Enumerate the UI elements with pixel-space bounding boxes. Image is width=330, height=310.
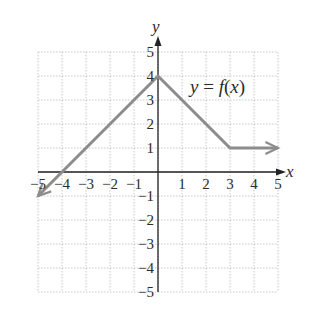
- x-tick-label: −5: [30, 176, 46, 192]
- y-axis-arrow-icon: [155, 36, 162, 46]
- x-tick-label: −4: [54, 176, 70, 192]
- y-tick-label: 1: [147, 140, 155, 156]
- x-tick-label: −2: [102, 176, 118, 192]
- y-tick-label: −2: [138, 212, 154, 228]
- y-tick-label: −5: [138, 284, 154, 300]
- function-graph: −5−4−3−2−11234554321−1−2−3−4−5 x y y = f…: [0, 0, 330, 310]
- y-tick-label: −3: [138, 236, 154, 252]
- x-tick-label: 5: [274, 176, 282, 192]
- x-tick-label: 4: [250, 176, 258, 192]
- y-axis-label: y: [150, 17, 160, 36]
- x-tick-label: 1: [178, 176, 186, 192]
- axes: [38, 36, 286, 292]
- y-tick-label: 5: [147, 44, 155, 60]
- x-axis-arrow-icon: [276, 169, 286, 176]
- function-label: y = f(x): [188, 76, 245, 98]
- y-tick-label: −1: [138, 188, 154, 204]
- x-axis-label: x: [285, 162, 294, 181]
- y-tick-label: 4: [147, 68, 155, 84]
- x-tick-label: 2: [202, 176, 210, 192]
- y-tick-label: 2: [147, 116, 155, 132]
- y-tick-label: 3: [147, 92, 155, 108]
- x-tick-label: 3: [226, 176, 234, 192]
- y-tick-label: −4: [138, 260, 154, 276]
- x-tick-label: −3: [78, 176, 94, 192]
